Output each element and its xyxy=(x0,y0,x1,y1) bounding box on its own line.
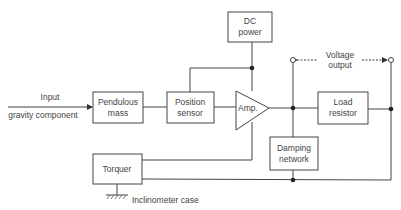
damping-network-label: Damping xyxy=(277,143,311,153)
input-label: Input xyxy=(41,92,61,102)
dc-power-label: DC xyxy=(244,16,256,26)
pendulous-mass-label: Pendulous xyxy=(98,97,138,107)
input-sublabel: gravity component xyxy=(8,110,78,120)
dc-power-label: power xyxy=(238,27,261,37)
output-terminal-right xyxy=(389,58,394,63)
position-sensor-label: Position xyxy=(175,97,206,107)
junction-dot xyxy=(250,66,255,71)
output-terminal-left xyxy=(291,58,296,63)
voltage-output-label: Voltage xyxy=(326,50,355,60)
inclinometer-case-label: Inclinometer case xyxy=(132,195,199,205)
junction-dot xyxy=(389,107,394,112)
load-resistor-label: Load xyxy=(334,97,353,107)
inclinometer-block-diagram: Input gravity component Pendulous mass P… xyxy=(0,0,401,210)
load-resistor-label: resistor xyxy=(329,108,357,118)
damping-network-label: network xyxy=(279,154,310,164)
junction-dot xyxy=(291,178,296,183)
amplifier-label: Amp. xyxy=(238,103,258,113)
voltage-output-label: output xyxy=(328,60,352,70)
pendulous-mass-label: mass xyxy=(108,108,128,118)
junction-dot xyxy=(291,106,296,111)
torquer-label: Torquer xyxy=(103,164,132,174)
position-sensor-label: sensor xyxy=(177,108,203,118)
